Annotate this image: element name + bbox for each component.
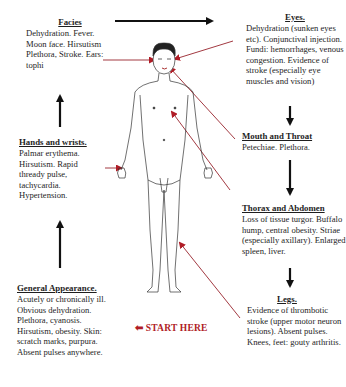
pointer-legs xyxy=(180,243,240,318)
pointer-lines xyxy=(103,41,240,318)
pointer-mouth xyxy=(170,68,235,139)
human-body-figure xyxy=(118,43,213,292)
pointer-eyes xyxy=(175,41,233,59)
diagram-graphics xyxy=(0,0,346,387)
